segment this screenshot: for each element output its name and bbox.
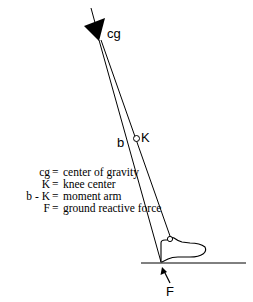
knee-center-circle-icon	[134, 136, 140, 142]
legend-description: center of gravity	[63, 166, 139, 178]
knee-label: K	[141, 131, 150, 144]
legend-equals: =	[52, 178, 59, 190]
legend-row-cg: cg = center of gravity	[0, 166, 140, 178]
knee-moment-diagram: cg K b F cg = center of gravity K = knee…	[0, 0, 253, 302]
b-label: b	[117, 136, 124, 149]
legend-equals: =	[52, 202, 59, 214]
legend-description: ground reactive force	[63, 202, 161, 214]
diagram-drawing	[0, 0, 253, 302]
legend-equals: =	[52, 190, 59, 202]
legend-row-moment-arm: b - K = moment arm	[0, 190, 140, 202]
legend-row-force: F = ground reactive force	[0, 202, 140, 214]
legend-description: knee center	[63, 178, 116, 190]
force-label: F	[166, 285, 174, 298]
legend-equals: =	[52, 166, 59, 178]
legend-description: moment arm	[63, 190, 121, 202]
ankle-circle-icon	[167, 236, 172, 241]
legend-row-knee: K = knee center	[0, 178, 140, 190]
legend-key: cg	[39, 166, 50, 178]
legend-key: F	[44, 202, 50, 214]
legend-key: K	[42, 178, 50, 190]
cg-label: cg	[107, 27, 121, 40]
legend: cg = center of gravity K = knee center b…	[0, 166, 140, 214]
leg-line-to-heel	[99, 40, 161, 262]
legend-key: b - K	[26, 190, 50, 202]
